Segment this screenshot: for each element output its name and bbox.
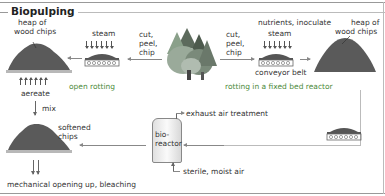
arrow-to-bioreactor (184, 145, 224, 146)
aereate-label: aereate (21, 89, 50, 98)
mix-label: mix (42, 104, 56, 113)
cut-left-label-2: peel, (139, 39, 157, 48)
heap-icon (6, 38, 72, 74)
mix-arrow (35, 101, 36, 115)
arrow-to-conveyor (220, 59, 254, 60)
bioreactor-label-2: reactor (155, 139, 182, 148)
bioreactor-label: bio- reactor (155, 130, 182, 148)
title-rule-left (0, 12, 8, 13)
nutrients-label: nutrients, inoculate (258, 18, 331, 27)
heap-left-label-2: wood chips (14, 27, 56, 36)
title-rule-right (66, 12, 385, 13)
heap-icon (312, 32, 378, 74)
arrow-to-heap-right (300, 59, 310, 60)
steam-right-label: steam (268, 29, 291, 38)
sterile-label: sterile, moist air (183, 167, 244, 176)
conveyor-belt-icon (326, 124, 362, 142)
steam-right-arrows-icon (264, 41, 290, 48)
heap-right-label-1: heap of (351, 18, 379, 27)
bottom-border (0, 193, 385, 194)
cut-left-label-1: cut, (139, 30, 153, 39)
conveyor-belt-icon (84, 50, 120, 68)
cut-right-label-1: cut, (226, 30, 240, 39)
arrow-to-steam-left (128, 59, 162, 60)
sterile-air-line (173, 171, 180, 172)
softened-label-1: softened (58, 123, 91, 132)
exhaust-arrow (176, 113, 184, 114)
aereate-arrows-icon (20, 78, 46, 85)
steam-left-label: steam (92, 29, 115, 38)
arrow-to-softened (80, 145, 146, 146)
biopulping-diagram: Biopulping heap of wood chips aereate op… (0, 0, 385, 196)
cut-right-label-3: chip (226, 48, 242, 57)
mechanical-label: mechanical opening up, bleaching (7, 180, 136, 189)
forest-icon (163, 26, 219, 82)
mechanical-arrow-1 (33, 160, 34, 174)
heap-left-label-1: heap of (18, 18, 46, 27)
cut-right-label-2: peel, (226, 39, 244, 48)
conveyor-belt-label: conveyor belt (255, 68, 306, 77)
diagram-title: Biopulping (8, 5, 78, 17)
steam-left-arrows-icon (86, 41, 112, 48)
top-border (0, 2, 385, 3)
right-border (383, 2, 384, 194)
open-rotting-label: open rotting (69, 82, 115, 91)
cut-left-label-3: chip (139, 48, 155, 57)
arrow-to-heap-left (68, 58, 82, 59)
mechanical-arrow-2 (38, 160, 39, 174)
conveyor-belt-icon (258, 50, 294, 68)
softened-label-2: chips (58, 132, 78, 141)
exhaust-label: exhaust air treatment (186, 109, 268, 118)
bioreactor-label-1: bio- (155, 130, 182, 139)
